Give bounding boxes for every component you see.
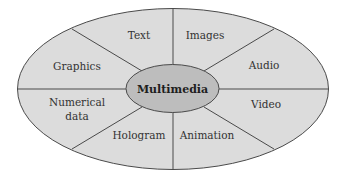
segment-numerical-data-label-line1: Numerical [49,96,106,108]
segment-numerical-data-label-line2: data [65,110,88,122]
segment-animation-label: Animation [179,129,235,141]
segment-audio-label: Audio [248,59,280,71]
multimedia-diagram: Multimedia Text Images Audio Video Anima… [0,0,345,179]
segment-images-label: Images [186,29,225,41]
segment-hologram-label: Hologram [112,129,165,141]
segment-graphics-label: Graphics [53,60,101,72]
segment-text-label: Text [128,29,151,41]
segment-video-label: Video [250,98,281,110]
center-label: Multimedia [137,83,208,96]
